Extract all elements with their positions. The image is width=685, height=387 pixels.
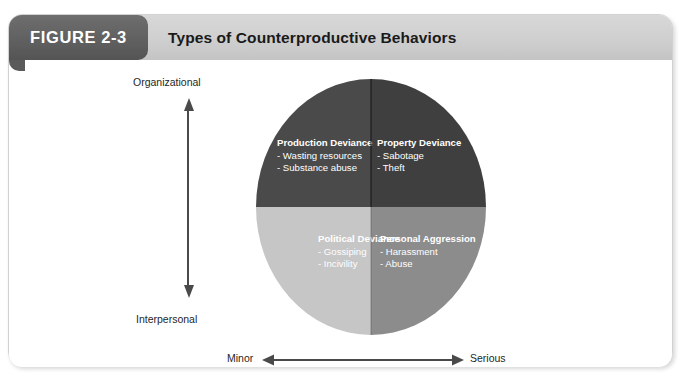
quadrant-circle: Production Deviance - Wasting resources … <box>256 79 486 335</box>
quadrant-personal-aggression <box>371 207 486 335</box>
quadrant-item: - Wasting resources <box>277 150 372 162</box>
quadrant-label-personal-aggression: Personal Aggression - Harassment - Abuse <box>380 233 476 271</box>
axis-label-serious: Serious <box>470 352 506 364</box>
quadrant-heading: Personal Aggression <box>380 233 476 245</box>
horizontal-axis-line <box>272 359 454 361</box>
quadrant-item: - Sabotage <box>377 150 461 162</box>
arrow-left-icon <box>262 354 275 366</box>
quadrant-item: - Abuse <box>380 258 476 270</box>
figure-number-tab: FIGURE 2-3 <box>9 15 148 60</box>
vertical-axis <box>187 98 189 298</box>
quadrant-label-property-deviance: Property Deviance - Sabotage - Theft <box>377 137 461 175</box>
quadrant-heading: Production Deviance <box>277 137 372 149</box>
quadrant-item: - Theft <box>377 162 461 174</box>
figure-card: FIGURE 2-3 Types of Counterproductive Be… <box>8 14 673 366</box>
arrow-down-icon <box>183 284 195 298</box>
figure-body: Organizational Interpersonal Production … <box>9 60 672 367</box>
axis-label-interpersonal: Interpersonal <box>136 313 197 325</box>
quadrant-divider-vertical-top <box>371 79 372 207</box>
figure-number-label: FIGURE 2-3 <box>30 28 127 47</box>
arrow-up-icon <box>183 98 195 112</box>
quadrant-heading: Property Deviance <box>377 137 461 149</box>
quadrant-item: - Substance abuse <box>277 162 372 174</box>
arrow-right-icon <box>451 354 464 366</box>
figure-title: Types of Counterproductive Behaviors <box>168 15 456 60</box>
vertical-axis-line <box>187 110 189 286</box>
figure-header: FIGURE 2-3 Types of Counterproductive Be… <box>9 15 672 60</box>
horizontal-axis <box>262 359 464 361</box>
quadrant-divider-vertical-bottom <box>371 207 372 335</box>
axis-label-organizational: Organizational <box>133 76 201 88</box>
quadrant-political-deviance <box>256 207 371 335</box>
quadrant-item: - Harassment <box>380 246 476 258</box>
quadrant-label-production-deviance: Production Deviance - Wasting resources … <box>277 137 372 175</box>
axis-label-minor: Minor <box>227 352 253 364</box>
